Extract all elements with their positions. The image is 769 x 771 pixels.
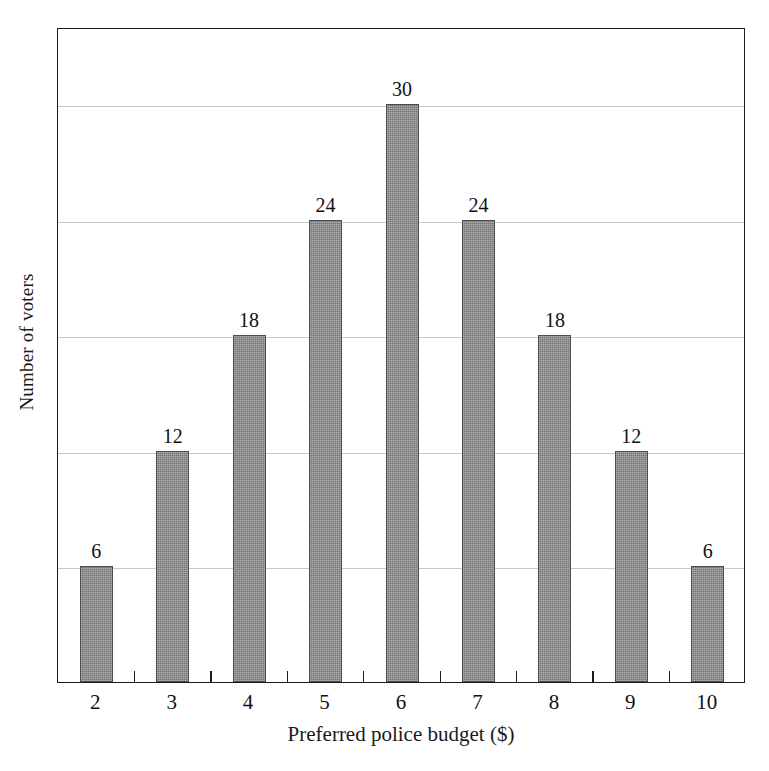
bar-value-label: 12 (138, 426, 207, 446)
bar-value-label: 12 (597, 426, 666, 446)
bar-value-label: 18 (215, 310, 284, 330)
bar[interactable] (615, 451, 648, 682)
x-tick-mark (210, 671, 211, 682)
bar-group[interactable]: 24 (309, 27, 342, 682)
x-axis-title: Preferred police budget ($) (57, 722, 745, 747)
bar-group[interactable]: 12 (156, 27, 189, 682)
bar-group[interactable]: 18 (538, 27, 571, 682)
x-tick-mark (363, 671, 364, 682)
bar[interactable] (309, 220, 342, 682)
x-tick-label: 5 (300, 688, 350, 716)
bar-group[interactable]: 30 (386, 27, 419, 682)
x-tick-mark (440, 671, 441, 682)
x-tick-mark (134, 671, 135, 682)
bar-value-label: 6 (62, 541, 131, 561)
bar-group[interactable]: 12 (615, 27, 648, 682)
x-tick-mark (669, 671, 670, 682)
x-tick-label: 8 (529, 688, 579, 716)
bar[interactable] (80, 566, 113, 682)
bar-group[interactable]: 24 (462, 27, 495, 682)
x-tick-label-group: 2345678910 (57, 688, 745, 720)
x-tick-label: 6 (376, 688, 426, 716)
x-tick-label: 7 (452, 688, 502, 716)
x-tick-label: 4 (223, 688, 273, 716)
bar-value-label: 18 (520, 310, 589, 330)
bar-group-container: 6121824302418126 (58, 29, 744, 682)
bar[interactable] (691, 566, 724, 682)
bar-value-label: 6 (673, 541, 742, 561)
x-tick-label: 2 (70, 688, 120, 716)
bar-value-label: 24 (444, 195, 513, 215)
y-axis-title: Number of voters (0, 0, 54, 683)
bar[interactable] (233, 335, 266, 682)
bar-chart-figure: Number of voters 6121824302418126 234567… (0, 0, 769, 771)
x-tick-mark (287, 671, 288, 682)
x-tick-label: 9 (605, 688, 655, 716)
x-tick-mark (592, 671, 593, 682)
bar-value-label: 24 (291, 195, 360, 215)
plot-area: 6121824302418126 (57, 28, 745, 683)
bar[interactable] (462, 220, 495, 682)
x-tick-mark (516, 671, 517, 682)
y-axis-title-text: Number of voters (16, 273, 38, 410)
bar-group[interactable]: 6 (80, 27, 113, 682)
bar[interactable] (538, 335, 571, 682)
bar[interactable] (156, 451, 189, 682)
x-tick-label: 10 (682, 688, 732, 716)
bar-value-label: 30 (368, 79, 437, 99)
bar[interactable] (386, 104, 419, 682)
x-tick-label: 3 (147, 688, 197, 716)
bar-group[interactable]: 6 (691, 27, 724, 682)
bar-group[interactable]: 18 (233, 27, 266, 682)
